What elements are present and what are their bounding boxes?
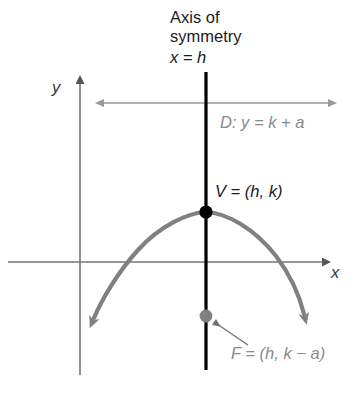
focus-label: F = (h, k − a) [231,344,325,363]
y-axis-label: y [52,78,60,97]
vertex-label: V = (h, k) [215,182,282,201]
axis-of-symmetry-title: Axis ofsymmetry [170,8,242,46]
x-axis-label: x [331,263,339,282]
directrix-label: D: y = k + a [220,113,304,132]
axis-of-symmetry-equation: x = h [170,48,206,67]
axis-of-symmetry-title-line1: Axis of [170,8,220,26]
parabola-figure: Axis ofsymmetry x = h y x D: y = k + a V… [0,0,356,395]
focus-point-dot [200,310,213,323]
focus-leader-line [214,322,248,345]
vertex-point-dot [199,205,212,218]
parabola-curve [94,212,206,318]
parabola-curve-right [206,212,304,314]
axis-of-symmetry-title-line2: symmetry [170,27,242,45]
